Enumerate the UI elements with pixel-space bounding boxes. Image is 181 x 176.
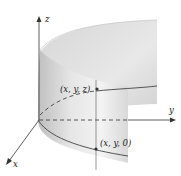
y-axis-label: y: [168, 105, 174, 115]
parabolic-cylinder-diagram: z y x (x, y, z) (x, y, 0): [0, 0, 181, 176]
point-xy0-label: (x, y, 0): [100, 138, 131, 148]
point-xyz-dot: [95, 87, 98, 90]
x-axis-label: x: [13, 159, 18, 169]
point-xyz-label: (x, y, z): [60, 84, 90, 94]
x-axis: [9, 120, 39, 161]
x-axis-arrow-icon: [6, 158, 12, 165]
z-axis-arrow-icon: [37, 16, 42, 22]
z-axis-label: z: [44, 14, 50, 24]
point-xy0-dot: [94, 147, 97, 150]
y-axis-arrow-icon: [170, 118, 176, 123]
